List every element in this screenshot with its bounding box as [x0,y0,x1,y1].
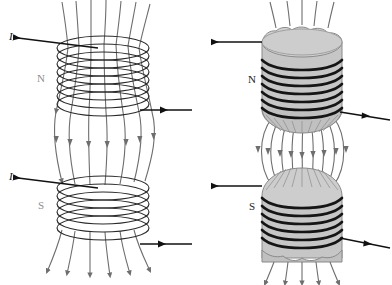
figure-canvas [0,0,392,285]
left-bottom-coil [57,176,149,240]
left-top-current-label: I [9,30,13,42]
right-bottom-core [262,168,342,262]
right-field-lines-top [270,0,334,28]
left-bottom-current-in [18,178,98,188]
right-top-current-out [340,112,390,120]
left-field-lines-top [62,0,150,48]
left-top-current-in [18,38,98,48]
left-top-pole-label: N [37,72,45,84]
left-bottom-pole-label: S [38,199,44,211]
left-bottom-current-label: I [9,170,13,182]
right-bottom-current-out [340,238,390,248]
left-field-lines-middle [54,45,154,185]
right-top-core [262,27,342,133]
left-bottom-current-out [140,241,192,248]
right-top-pole-label: N [248,73,256,85]
left-panel [18,0,192,276]
right-panel [216,0,390,284]
right-bottom-pole-label: S [249,200,255,212]
left-top-coil [57,36,149,116]
right-field-lines-bottom [265,262,339,284]
physics-figure: I I N S N S [0,0,392,285]
